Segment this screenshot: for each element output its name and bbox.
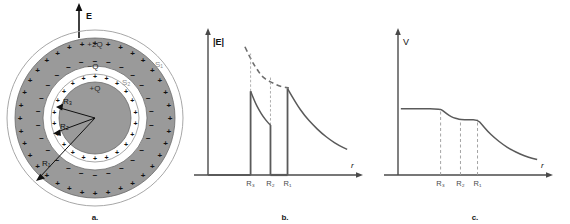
charge-sign-minus: − (46, 81, 51, 90)
charge-sign-plus: + (124, 88, 128, 95)
e-field-arrow (76, 3, 83, 38)
efield-branch-1 (251, 91, 271, 125)
tick-label-R: R₁ (474, 179, 482, 188)
charge-sign-minus: − (55, 71, 60, 80)
charge-sign-plus: + (52, 120, 56, 127)
potential-tick-labels: R₃R₂R₁ (436, 179, 482, 188)
charge-sign-minus: − (66, 164, 71, 173)
charge-sign-plus: + (167, 127, 172, 136)
charge-sign-minus: − (119, 164, 124, 173)
charge-sign-plus: + (158, 151, 163, 160)
caption-panel-a: a. (0, 213, 190, 222)
label-surface-s1: S₁ (155, 60, 163, 69)
label-radius-r3: R₃ (63, 97, 72, 106)
charge-sign-minus: − (130, 156, 135, 165)
charge-sign-plus: + (168, 114, 173, 123)
charge-sign-minus: − (106, 58, 111, 67)
charge-sign-plus: + (52, 109, 56, 116)
charge-sign-plus: + (35, 66, 40, 75)
charge-sign-minus: − (79, 169, 84, 178)
efield-branch-3 (288, 89, 348, 150)
charge-sign-plus: + (118, 184, 123, 193)
charge-sign-minus: − (146, 134, 151, 143)
charge-sign-plus: + (130, 49, 135, 58)
charge-sign-plus: + (150, 162, 155, 171)
charge-sign-minus: − (140, 81, 145, 90)
axis-label-y-panel-b: |E| (213, 37, 224, 47)
efield-plot-series (208, 47, 347, 175)
axis-label-y-panel-c: V (403, 37, 409, 47)
panel-a-charged-shell-diagram: E ++++++++++++++++++++++++++++++++++++ −… (0, 0, 190, 224)
charge-sign-minus: − (149, 121, 154, 130)
charge-sign-plus: + (124, 141, 128, 148)
dashed-reference-curve (245, 47, 289, 88)
charge-sign-minus: − (93, 171, 98, 180)
charge-sign-plus: + (80, 188, 85, 197)
charge-sign-plus: + (115, 149, 119, 156)
charge-sign-plus: + (93, 155, 97, 162)
charge-sign-minus: − (79, 58, 84, 67)
charge-sign-plus: + (22, 139, 27, 148)
charge-sign-plus: + (35, 162, 40, 171)
charge-sign-plus: + (19, 127, 24, 136)
charge-sign-minus: − (146, 94, 151, 103)
label-outer-charge: +2Q (87, 40, 102, 49)
charge-sign-plus: + (71, 80, 75, 87)
charge-sign-plus: + (62, 88, 66, 95)
charge-sign-plus: + (67, 184, 72, 193)
panel-b-efield-chart: |E| r R₃R₂R₁ b. (190, 0, 380, 224)
tick-label-R: R₁ (284, 179, 292, 188)
charge-sign-minus: − (140, 146, 145, 155)
charge-sign-plus: + (167, 101, 172, 110)
panel-c-canvas: V r R₃R₂R₁ (380, 0, 570, 224)
charge-sign-plus: + (80, 40, 85, 49)
charge-sign-plus: + (130, 179, 135, 188)
charge-sign-plus: + (71, 149, 75, 156)
charge-sign-plus: + (55, 179, 60, 188)
charge-sign-plus: + (19, 101, 24, 110)
charge-sign-minus: − (36, 121, 41, 130)
physics-figure: E ++++++++++++++++++++++++++++++++++++ −… (0, 0, 570, 224)
tick-label-R: R₂ (266, 179, 274, 188)
charge-sign-plus: + (115, 80, 119, 87)
charge-sign-plus: + (81, 75, 85, 82)
caption-panel-c: c. (380, 213, 570, 222)
charge-sign-plus: + (105, 154, 109, 161)
charge-sign-plus: + (106, 40, 111, 49)
label-radius-r1: R₁ (42, 159, 51, 168)
panel-a-canvas: E ++++++++++++++++++++++++++++++++++++ −… (0, 0, 190, 224)
charge-sign-plus: + (134, 120, 138, 127)
charge-sign-minus: − (39, 94, 44, 103)
charge-sign-plus: + (130, 97, 134, 104)
charge-sign-plus: + (67, 43, 72, 52)
charge-sign-minus: − (106, 169, 111, 178)
e-field-label: E (86, 11, 92, 21)
charge-sign-plus: + (55, 49, 60, 58)
charge-sign-plus: + (141, 56, 146, 65)
charge-sign-plus: + (22, 88, 27, 97)
charge-sign-plus: + (56, 97, 60, 104)
charge-sign-minus: − (46, 146, 51, 155)
charge-sign-plus: + (62, 141, 66, 148)
charge-sign-minus: − (39, 134, 44, 143)
tick-label-R: R₃ (246, 179, 254, 188)
charge-sign-minus: − (119, 63, 124, 72)
charge-sign-plus: + (44, 171, 49, 180)
charge-sign-plus: + (141, 171, 146, 180)
charge-sign-plus: + (158, 76, 163, 85)
charge-sign-plus: + (134, 109, 138, 116)
charge-sign-minus: − (66, 63, 71, 72)
axes-panel-b (194, 28, 363, 178)
charge-sign-plus: + (105, 75, 109, 82)
charge-sign-plus: + (44, 56, 49, 65)
charge-sign-plus: + (106, 188, 111, 197)
charge-sign-plus: + (18, 114, 23, 123)
charge-sign-plus: + (81, 154, 85, 161)
tick-label-R: R₂ (456, 179, 464, 188)
panel-c-potential-chart: V r R₃R₂R₁ c. (380, 0, 570, 224)
tick-label-R: R₃ (436, 179, 444, 188)
caption-panel-b: b. (190, 213, 380, 222)
charge-sign-plus: + (118, 43, 123, 52)
charge-sign-plus: + (93, 73, 97, 80)
label-radius-r2: R₂ (60, 122, 69, 131)
